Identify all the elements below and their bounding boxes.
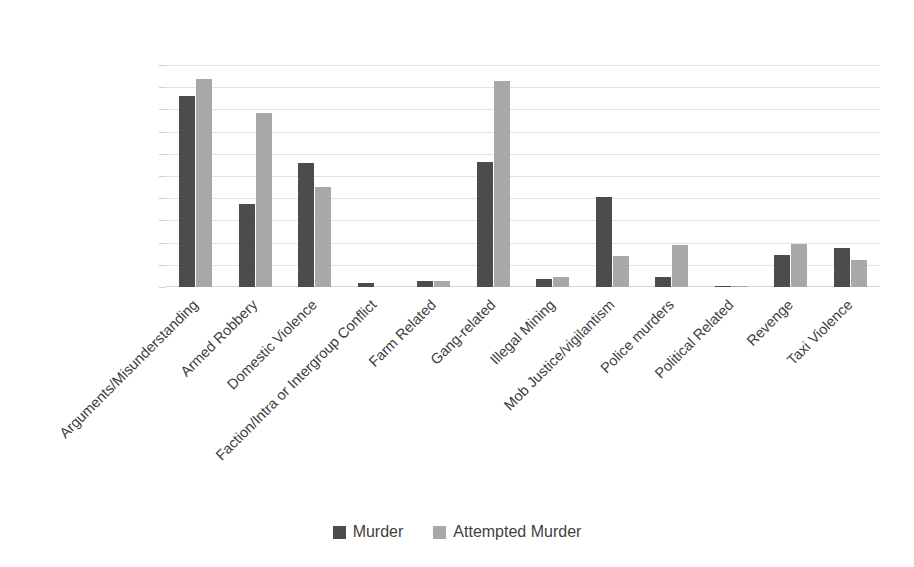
gridline <box>166 87 880 88</box>
legend-item-murder[interactable]: Murder <box>333 524 404 540</box>
bar-group <box>417 65 450 287</box>
bar-group <box>536 65 569 287</box>
y-axis-tick-mark <box>159 220 166 221</box>
bar-attempted-murder[interactable] <box>434 281 450 287</box>
legend-label: Attempted Murder <box>453 524 581 540</box>
bar-group <box>239 65 272 287</box>
y-axis-tick-mark <box>159 87 166 88</box>
gridline <box>166 220 880 221</box>
bar-attempted-murder[interactable] <box>672 245 688 287</box>
bar-group <box>477 65 510 287</box>
bar-attempted-murder[interactable] <box>494 81 510 287</box>
legend-item-attempted-murder[interactable]: Attempted Murder <box>433 524 581 540</box>
bar-murder[interactable] <box>179 96 195 287</box>
bar-group <box>298 65 331 287</box>
bar-murder[interactable] <box>655 277 671 287</box>
gridline <box>166 198 880 199</box>
y-axis-tick-mark <box>159 109 166 110</box>
legend-swatch-icon <box>433 526 446 539</box>
bar-group <box>655 65 688 287</box>
y-axis-tick-mark <box>159 198 166 199</box>
bar-murder[interactable] <box>298 163 314 287</box>
plot-area: 0200400600800100012001400160018002000 <box>166 65 880 287</box>
gridline <box>166 109 880 110</box>
bar-group <box>715 65 748 287</box>
bar-attempted-murder[interactable] <box>732 286 748 287</box>
bar-group <box>358 65 391 287</box>
x-axis-label-domestic-violence: Domestic Violence <box>87 297 320 530</box>
bar-attempted-murder[interactable] <box>851 260 867 287</box>
y-axis-tick-mark <box>159 265 166 266</box>
bar-murder[interactable] <box>358 283 374 287</box>
y-axis-tick-mark <box>159 132 166 133</box>
y-axis-tick-mark <box>159 287 166 288</box>
gridline <box>166 65 880 66</box>
bar-chart: 0200400600800100012001400160018002000 Ar… <box>0 0 914 567</box>
bar-attempted-murder[interactable] <box>256 113 272 287</box>
legend-swatch-icon <box>333 526 346 539</box>
legend-label: Murder <box>353 524 404 540</box>
gridline <box>166 265 880 266</box>
gridline <box>166 243 880 244</box>
bar-murder[interactable] <box>596 197 612 287</box>
bar-group <box>774 65 807 287</box>
bar-group <box>179 65 212 287</box>
bar-murder[interactable] <box>477 162 493 287</box>
bar-attempted-murder[interactable] <box>791 244 807 287</box>
bar-group <box>834 65 867 287</box>
y-axis-tick-mark <box>159 243 166 244</box>
bar-attempted-murder[interactable] <box>613 256 629 287</box>
y-axis-tick-mark <box>159 154 166 155</box>
chart-legend: MurderAttempted Murder <box>0 524 914 540</box>
x-axis-baseline <box>166 286 880 287</box>
bar-murder[interactable] <box>239 204 255 287</box>
bar-attempted-murder[interactable] <box>315 187 331 287</box>
y-axis-tick-mark <box>159 176 166 177</box>
bar-attempted-murder[interactable] <box>196 79 212 287</box>
bar-murder[interactable] <box>417 281 433 287</box>
gridline <box>166 176 880 177</box>
gridline <box>166 132 880 133</box>
bar-attempted-murder[interactable] <box>553 277 569 287</box>
bar-murder[interactable] <box>774 255 790 287</box>
bar-murder[interactable] <box>834 248 850 287</box>
bar-group <box>596 65 629 287</box>
gridline <box>166 154 880 155</box>
y-axis-tick-mark <box>159 65 166 66</box>
bar-murder[interactable] <box>715 286 731 287</box>
bar-murder[interactable] <box>536 279 552 287</box>
